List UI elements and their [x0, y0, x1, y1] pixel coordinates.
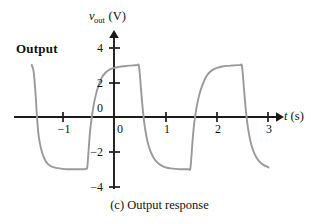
y-axis-title: vout (V) [89, 10, 126, 23]
x-tick-label-1: 1 [159, 123, 175, 135]
y-axis-subscript: out [94, 15, 105, 25]
output-series-label: Output [16, 42, 58, 55]
output-response-figure: Output vout (V) t (s) −1 0 1 2 3 4 2 0 −… [0, 0, 319, 224]
x-axis-unit: (s) [291, 109, 304, 123]
y-tick-label--4: −4 [80, 181, 103, 193]
y-tick-label-0: 0 [85, 102, 103, 114]
x-tick-label-2: 2 [210, 123, 226, 135]
y-tick-label--2: −2 [80, 146, 103, 158]
y-axis-arrowhead [109, 30, 119, 38]
figure-caption: (c) Output response [0, 198, 319, 213]
waveform-plot [0, 0, 319, 224]
y-tick-label-2: 2 [85, 77, 103, 89]
y-tick-label-4: 4 [85, 42, 103, 54]
x-axis-title: t (s) [284, 110, 304, 123]
x-tick-label-3: 3 [261, 123, 277, 135]
x-tick-label--1: −1 [56, 123, 72, 135]
y-axis-unit: (V) [109, 9, 126, 23]
x-tick-label-0: 0 [112, 123, 128, 135]
x-axis-arrowhead [276, 112, 284, 122]
